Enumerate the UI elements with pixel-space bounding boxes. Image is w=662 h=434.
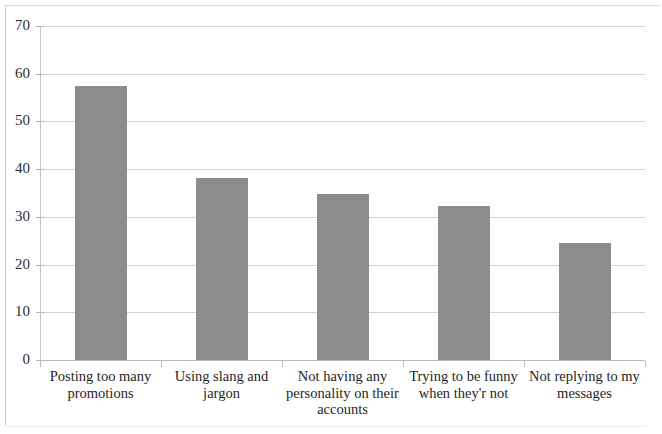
y-tick-label-40: 40: [0, 161, 30, 176]
y-tick-mark-70: [36, 26, 44, 27]
y-tick-label-10: 10: [0, 304, 30, 319]
bar-0[interactable]: [75, 86, 127, 360]
x-axis-label-line: promotions: [40, 385, 161, 402]
x-axis-label-line: Trying to be funny: [403, 368, 524, 385]
y-tick-mark-50: [36, 121, 44, 122]
x-tick-mark-2: [282, 361, 283, 367]
x-axis-label-2: Not having anypersonality on theiraccoun…: [282, 368, 403, 418]
gridline-60: [40, 74, 645, 75]
bar-1[interactable]: [196, 178, 248, 360]
x-axis-label-line: jargon: [161, 385, 282, 402]
y-tick-label-60: 60: [0, 66, 30, 81]
x-axis-label-line: Not replying to my: [524, 368, 645, 385]
x-tick-mark-1: [161, 361, 162, 367]
x-axis-label-line: Using slang and: [161, 368, 282, 385]
y-tick-mark-60: [36, 74, 44, 75]
y-tick-label-30: 30: [0, 209, 30, 224]
x-axis-label-line: when they'r not: [403, 385, 524, 402]
gridline-40: [40, 169, 645, 170]
y-tick-mark-20: [36, 265, 44, 266]
y-tick-mark-10: [36, 312, 44, 313]
x-axis-label-1: Using slang andjargon: [161, 368, 282, 401]
y-tick-label-20: 20: [0, 257, 30, 272]
bar-4[interactable]: [559, 243, 611, 360]
gridline-70: [40, 26, 645, 27]
gridline-0: [40, 360, 645, 361]
x-axis-label-3: Trying to be funnywhen they'r not: [403, 368, 524, 401]
x-axis-label-line: personality on their: [282, 385, 403, 402]
y-tick-label-50: 50: [0, 113, 30, 128]
x-axis-label-line: messages: [524, 385, 645, 402]
x-tick-mark-5: [645, 361, 646, 367]
x-axis-label-0: Posting too manypromotions: [40, 368, 161, 401]
x-axis-label-line: Not having any: [282, 368, 403, 385]
y-tick-mark-40: [36, 169, 44, 170]
x-tick-mark-0: [40, 361, 41, 367]
x-axis-label-4: Not replying to mymessages: [524, 368, 645, 401]
bar-chart: 010203040506070 Posting too manypromotio…: [0, 0, 662, 434]
x-tick-mark-3: [403, 361, 404, 367]
gridline-50: [40, 121, 645, 122]
y-tick-mark-30: [36, 217, 44, 218]
x-tick-mark-4: [524, 361, 525, 367]
y-tick-label-70: 70: [0, 18, 30, 33]
bar-3[interactable]: [438, 206, 490, 360]
x-axis-label-line: accounts: [282, 401, 403, 418]
y-tick-label-0: 0: [0, 352, 30, 367]
y-axis-line: [40, 26, 41, 361]
x-axis-label-line: Posting too many: [40, 368, 161, 385]
bar-2[interactable]: [317, 194, 369, 360]
